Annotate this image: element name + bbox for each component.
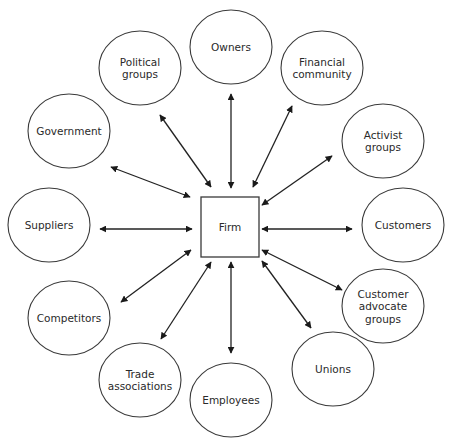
node-label: Financial [299, 56, 345, 68]
node-label: groups [365, 141, 401, 153]
edge-firm-trade-associations [161, 262, 211, 339]
node-customers: Customers [362, 188, 444, 262]
firm-node: Firm [201, 197, 259, 257]
node-customer-advocate-groups: Customeradvocategroups [342, 269, 424, 343]
node-label: Competitors [37, 312, 101, 324]
edge-firm-political-groups [160, 115, 211, 187]
node-label: Customer [357, 288, 409, 300]
node-political-groups: Politicalgroups [99, 31, 181, 105]
node-label: Customers [375, 219, 431, 231]
node-suppliers: Suppliers [8, 188, 90, 262]
node-label: Government [36, 125, 101, 137]
node-label: associations [108, 380, 173, 392]
edge-firm-financial-community [253, 106, 292, 187]
node-financial-community: Financialcommunity [281, 31, 363, 105]
node-label: Owners [211, 41, 251, 53]
node-label: advocate [359, 300, 408, 312]
node-government: Government [28, 94, 110, 168]
edge-firm-customer-advocate-groups [262, 250, 342, 290]
node-label: Activist [364, 129, 403, 141]
node-employees: Employees [190, 363, 272, 437]
edge-firm-activist-groups [262, 156, 332, 205]
node-label: groups [365, 313, 401, 325]
node-competitors: Competitors [28, 281, 110, 355]
node-activist-groups: Activistgroups [342, 104, 424, 178]
node-label: Unions [315, 363, 351, 375]
edge-firm-government [111, 167, 190, 197]
node-label: Employees [202, 394, 259, 406]
stakeholder-diagram: OwnersFinancialcommunityActivistgroupsCu… [0, 0, 453, 445]
node-unions: Unions [292, 332, 374, 406]
node-label: Political [120, 56, 160, 68]
node-label: groups [122, 68, 158, 80]
firm-label: Firm [219, 221, 242, 233]
node-owners: Owners [190, 10, 272, 84]
node-label: Trade [125, 368, 155, 380]
edge-firm-competitors [121, 250, 191, 302]
node-label: Suppliers [25, 219, 74, 231]
node-label: community [292, 68, 351, 80]
node-trade-associations: Tradeassociations [99, 343, 181, 417]
